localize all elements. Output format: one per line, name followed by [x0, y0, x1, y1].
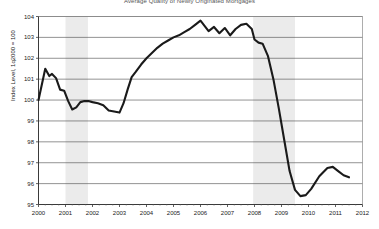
y-tick-label: 98 [27, 139, 34, 145]
x-tick-label: 2009 [275, 210, 289, 216]
y-tick-label: 95 [27, 202, 34, 208]
y-tick-label: 96 [27, 181, 34, 187]
x-tick-label: 2002 [86, 210, 100, 216]
x-tick-label: 2008 [248, 210, 262, 216]
y-tick-label: 97 [27, 160, 34, 166]
y-tick-label: 103 [24, 34, 35, 40]
x-tick-label: 2003 [113, 210, 127, 216]
y-tick-label: 100 [24, 97, 35, 103]
x-axis-ticks: 2000200120022003200420052006200720082009… [32, 205, 370, 216]
x-tick-label: 2007 [221, 210, 235, 216]
recession-band-recession-2001 [66, 17, 88, 205]
x-tick-label: 2000 [32, 210, 46, 216]
x-tick-label: 2005 [167, 210, 181, 216]
y-axis-ticks: 9596979899100101102103104 [24, 14, 39, 208]
plot-area: 9596979899100101102103104 20002001200220… [0, 0, 379, 229]
recession-bands [66, 17, 296, 205]
x-tick-label: 2010 [302, 210, 316, 216]
x-tick-label: 2001 [59, 210, 73, 216]
x-tick-label: 2012 [356, 210, 370, 216]
x-tick-label: 2011 [329, 210, 343, 216]
chart-figure: Average Quality of Newly Originated Mort… [0, 0, 379, 229]
y-tick-label: 102 [24, 55, 35, 61]
x-tick-label: 2006 [194, 210, 208, 216]
x-tick-label: 2004 [140, 210, 154, 216]
y-tick-label: 104 [24, 14, 35, 20]
y-tick-label: 101 [24, 76, 35, 82]
y-tick-label: 99 [27, 118, 34, 124]
recession-band-recession-2008 [253, 17, 295, 205]
